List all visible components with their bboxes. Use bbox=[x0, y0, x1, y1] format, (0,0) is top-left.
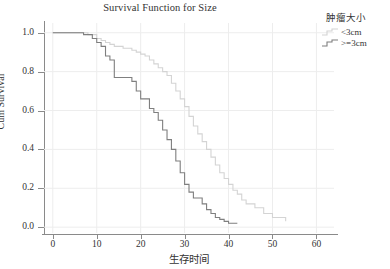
survival-curves-svg bbox=[44, 23, 334, 233]
survival-curve-2 bbox=[53, 33, 238, 224]
legend-label: <3cm bbox=[341, 27, 362, 37]
legend-swatch-icon bbox=[322, 28, 338, 37]
plot-area bbox=[44, 23, 334, 233]
y-tick-mark bbox=[38, 188, 44, 189]
x-tick-label: 0 bbox=[38, 239, 68, 249]
legend-label: >=3cm bbox=[341, 38, 367, 48]
y-tick-label: 0.4 bbox=[0, 143, 34, 153]
y-tick-mark bbox=[38, 33, 44, 34]
x-axis-line bbox=[42, 234, 338, 235]
y-tick-label: 0.6 bbox=[0, 105, 34, 115]
y-tick-label: 0.8 bbox=[0, 66, 34, 76]
survival-chart: Survival Function for Size Cum Survival … bbox=[0, 0, 390, 269]
legend-swatch-icon bbox=[322, 39, 338, 48]
survival-curve-1 bbox=[53, 33, 286, 222]
legend-title: 肿瘤大小 bbox=[322, 10, 390, 24]
x-tick-label: 50 bbox=[257, 239, 287, 249]
legend-item-1: <3cm bbox=[322, 27, 390, 37]
y-tick-mark bbox=[38, 227, 44, 228]
y-tick-label: 1.0 bbox=[0, 27, 34, 37]
legend-item-2: >=3cm bbox=[322, 38, 390, 48]
y-tick-label: 0.0 bbox=[0, 221, 34, 231]
legend-entries: <3cm>=3cm bbox=[322, 27, 390, 48]
y-tick-mark bbox=[38, 72, 44, 73]
x-tick-label: 30 bbox=[170, 239, 200, 249]
x-tick-label: 40 bbox=[214, 239, 244, 249]
x-tick-label: 60 bbox=[301, 239, 331, 249]
legend: 肿瘤大小 <3cm>=3cm bbox=[322, 10, 390, 49]
chart-title: Survival Function for Size bbox=[0, 2, 320, 13]
x-tick-label: 20 bbox=[126, 239, 156, 249]
x-tick-label: 10 bbox=[82, 239, 112, 249]
y-tick-mark bbox=[38, 149, 44, 150]
y-tick-label: 0.2 bbox=[0, 182, 34, 192]
x-axis-title: 生存时间 bbox=[44, 251, 334, 266]
y-tick-mark bbox=[38, 111, 44, 112]
